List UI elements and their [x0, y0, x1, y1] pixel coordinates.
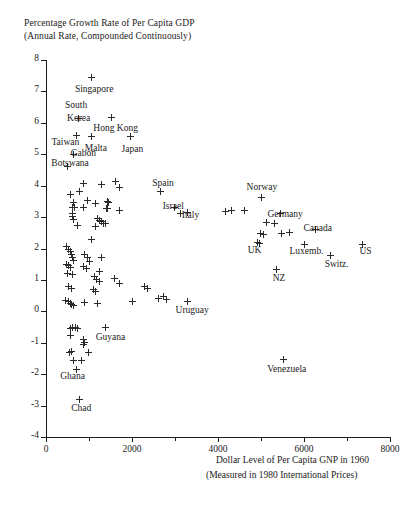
data-point	[92, 223, 99, 230]
y-tick	[41, 186, 46, 187]
y-tick	[41, 217, 46, 218]
x-axis-label-sub: (Measured in 1980 International Prices)	[206, 470, 357, 480]
y-tick-label: -2	[13, 367, 39, 377]
data-point	[68, 285, 75, 292]
data-point	[94, 300, 101, 307]
scatter-chart-figure: Percentage Growth Rate of Per Capita GDP…	[0, 0, 407, 506]
point-label: Taiwan	[51, 137, 79, 147]
x-minor-tick	[89, 437, 90, 441]
data-point	[69, 271, 76, 278]
data-point	[92, 288, 99, 295]
data-point	[80, 204, 87, 211]
data-point	[67, 191, 74, 198]
y-tick-label: 5	[13, 147, 39, 157]
plot-area: -4-3-2-1012345678 02000400060008000 Sing…	[46, 60, 390, 437]
point-label: Uruguay	[176, 305, 209, 315]
data-point	[163, 296, 170, 303]
point-label: Hong Kong	[93, 123, 138, 133]
y-tick	[41, 91, 46, 92]
data-point	[86, 258, 93, 265]
point-label: Spain	[152, 178, 174, 188]
y-tick-label: -4	[13, 430, 39, 440]
x-tick-label: 0	[24, 444, 68, 454]
point-label: Switz.	[325, 259, 349, 269]
y-tick	[41, 406, 46, 407]
data-point	[98, 181, 105, 188]
point-label: Luxemb.	[290, 246, 324, 256]
x-minor-tick	[261, 437, 262, 441]
y-tick-label: 6	[13, 116, 39, 126]
y-tick	[41, 123, 46, 124]
data-point	[286, 229, 293, 236]
data-point	[184, 298, 191, 305]
y-tick-label: -1	[13, 336, 39, 346]
point-label: Italy	[182, 210, 199, 220]
data-point	[127, 133, 134, 140]
point-label: Venezuela	[267, 364, 306, 374]
x-tick	[304, 437, 305, 442]
chart-subtitle: (Annual Rate, Compounded Continuously)	[24, 31, 191, 41]
point-label: Guyana	[96, 332, 126, 342]
data-point	[70, 357, 77, 364]
y-tick	[41, 343, 46, 344]
point-label: Norway	[247, 182, 278, 192]
point-label: Japan	[122, 144, 144, 154]
data-point	[96, 278, 103, 285]
data-point	[76, 188, 83, 195]
x-minor-tick	[347, 437, 348, 441]
point-label: Singapore	[75, 84, 114, 94]
point-label: Botswana	[51, 158, 88, 168]
data-point	[78, 357, 85, 364]
data-point	[92, 200, 99, 207]
y-tick-label: -3	[13, 399, 39, 409]
data-point	[157, 188, 164, 195]
data-point	[258, 194, 265, 201]
data-point	[144, 285, 151, 292]
data-point	[271, 220, 278, 227]
data-point	[98, 254, 105, 261]
x-tick-label: 2000	[110, 444, 154, 454]
y-tick-label: 0	[13, 304, 39, 314]
data-point	[260, 231, 267, 238]
x-tick	[218, 437, 219, 442]
point-label: Korea	[67, 113, 90, 123]
point-label: NZ	[273, 273, 286, 283]
x-tick-label: 4000	[196, 444, 240, 454]
y-axis-line	[46, 60, 47, 437]
data-point	[108, 114, 115, 121]
data-point	[116, 184, 123, 191]
data-point	[68, 348, 75, 355]
data-point	[102, 220, 109, 227]
y-tick-label: 3	[13, 210, 39, 220]
data-point	[263, 219, 270, 226]
y-tick-label: 8	[13, 53, 39, 63]
data-point	[241, 207, 248, 214]
x-minor-tick	[175, 437, 176, 441]
x-tick	[390, 437, 391, 442]
point-label: South	[65, 100, 87, 110]
x-tick	[132, 437, 133, 442]
x-tick-label: 6000	[282, 444, 326, 454]
point-label: Canada	[304, 223, 333, 233]
data-point	[102, 324, 109, 331]
y-tick-label: 7	[13, 84, 39, 94]
x-axis-label: Dollar Level of Per Capita GNP in 1960	[216, 455, 369, 465]
point-label: Chad	[71, 403, 91, 413]
data-point	[116, 207, 123, 214]
point-label: Germany	[267, 209, 302, 219]
data-point	[83, 265, 90, 272]
data-point	[129, 298, 136, 305]
data-point	[278, 230, 285, 237]
data-point	[104, 205, 111, 212]
data-point	[80, 341, 87, 348]
data-point	[85, 349, 92, 356]
data-point	[228, 207, 235, 214]
y-tick-label: 4	[13, 179, 39, 189]
data-point	[81, 299, 88, 306]
data-point	[74, 325, 81, 332]
y-tick-label: 1	[13, 273, 39, 283]
y-tick	[41, 311, 46, 312]
point-label: Ghana	[60, 371, 85, 381]
y-tick	[41, 60, 46, 61]
x-tick-label: 8000	[368, 444, 407, 454]
